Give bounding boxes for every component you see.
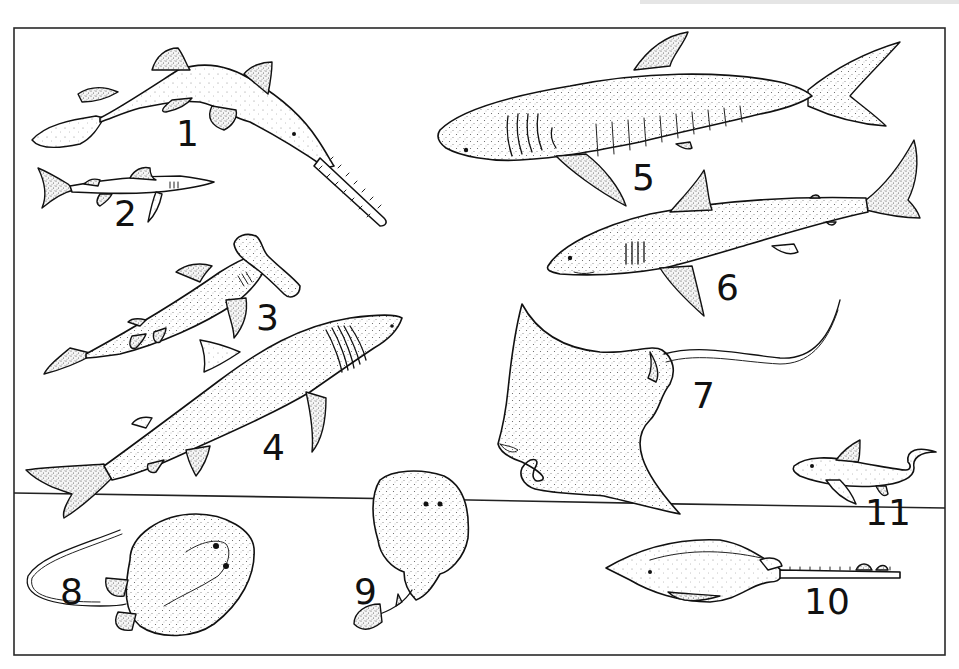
label-9: 9 [354,571,377,612]
label-10: 10 [804,581,850,622]
figure-10-sawfish [606,540,900,602]
figure-5-whale-shark [438,32,900,206]
label-8: 8 [60,571,83,612]
label-4: 4 [262,427,285,468]
label-6: 6 [716,267,739,308]
label-7: 7 [692,375,715,416]
illustration-plate: 1 2 3 4 5 6 7 8 9 10 11 [0,0,959,669]
label-3: 3 [256,297,279,338]
figure-4-basking-shark [26,315,402,518]
figure-1-saw-shark [32,48,386,226]
label-2: 2 [114,193,137,234]
cropped-header-text [640,0,959,4]
figure-7-manta-ray [498,300,840,514]
label-11: 11 [865,492,911,533]
label-5: 5 [632,157,655,198]
label-1: 1 [176,113,199,154]
seabed-line [14,493,945,508]
